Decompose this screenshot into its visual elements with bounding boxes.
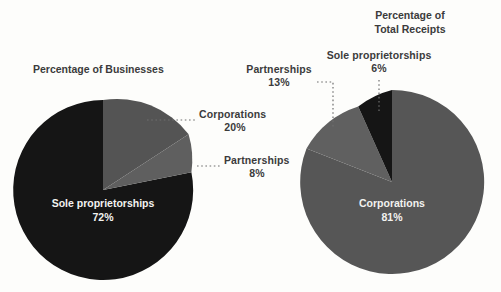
left-pie <box>13 99 193 280</box>
left-callout-corporations-name: Corporations <box>199 108 266 120</box>
right-leader-partnerships <box>317 82 333 127</box>
right-slice-corporations <box>300 90 484 274</box>
right-callout-sole-proprietorships-name: Sole proprietorships <box>327 49 432 61</box>
right-chart-title: Percentage of Total Receipts <box>340 9 480 37</box>
right-callout-partnerships-value: 13% <box>243 76 315 89</box>
left-callout-corporations-value: 20% <box>199 121 271 134</box>
left-chart-title: Percentage of Businesses <box>33 63 164 77</box>
right-inside-label: Corporations 81% <box>322 197 462 224</box>
pie-charts-canvas <box>0 0 501 292</box>
left-callout-corporations: Corporations 20% <box>199 108 299 135</box>
right-chart-title-line1: Percentage of <box>375 9 444 21</box>
right-callout-sole-proprietorships: Sole proprietorships 6% <box>312 49 446 76</box>
right-inside-label-name: Corporations <box>359 197 425 209</box>
right-chart-title-line2: Total Receipts <box>375 23 446 35</box>
right-inside-label-value: 81% <box>322 211 462 225</box>
left-inside-label-value: 72% <box>0 211 206 225</box>
left-callout-partnerships-name: Partnerships <box>224 154 289 166</box>
left-callout-partnerships: Partnerships 8% <box>224 154 324 181</box>
right-callout-partnerships: Partnerships 13% <box>243 63 315 90</box>
left-callout-partnerships-value: 8% <box>224 167 290 180</box>
left-inside-label-name: Sole proprietorships <box>52 197 155 209</box>
right-callout-sole-proprietorships-value: 6% <box>312 62 446 75</box>
right-callout-partnerships-name: Partnerships <box>246 63 311 75</box>
two-pie-chart-figure: Percentage of Businesses Sole proprietor… <box>0 0 501 292</box>
right-pie <box>300 90 484 274</box>
left-inside-label: Sole proprietorships 72% <box>0 197 206 224</box>
